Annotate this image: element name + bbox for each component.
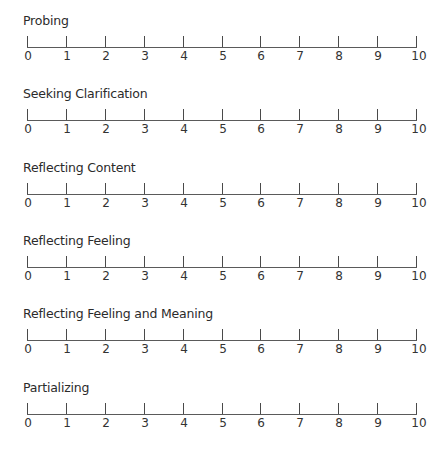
tick-mark[interactable] bbox=[338, 109, 339, 120]
tick-mark[interactable] bbox=[183, 183, 184, 194]
tick-mark[interactable] bbox=[377, 329, 378, 340]
tick-label: 2 bbox=[102, 196, 110, 210]
tick-mark[interactable] bbox=[222, 403, 223, 414]
tick-mark[interactable] bbox=[299, 256, 300, 267]
tick-mark[interactable] bbox=[222, 36, 223, 47]
tick-label: 4 bbox=[180, 196, 188, 210]
tick-mark[interactable] bbox=[416, 36, 417, 47]
tick-mark[interactable] bbox=[105, 329, 106, 340]
tick-mark[interactable] bbox=[377, 36, 378, 47]
scale-title: Probing bbox=[23, 13, 69, 28]
tick-mark[interactable] bbox=[105, 403, 106, 414]
tick-mark[interactable] bbox=[144, 329, 145, 340]
tick-label: 2 bbox=[102, 269, 110, 283]
tick-mark[interactable] bbox=[377, 183, 378, 194]
tick-mark[interactable] bbox=[27, 109, 28, 120]
tick-mark[interactable] bbox=[260, 183, 261, 194]
tick-mark[interactable] bbox=[222, 109, 223, 120]
tick-label: 0 bbox=[24, 196, 32, 210]
tick-mark[interactable] bbox=[66, 183, 67, 194]
tick-label: 7 bbox=[296, 196, 304, 210]
tick-mark[interactable] bbox=[66, 329, 67, 340]
tick-mark[interactable] bbox=[66, 36, 67, 47]
tick-label: 10 bbox=[411, 342, 426, 356]
rating-scale-reflecting-feeling-and-meaning: Reflecting Feeling and Meaning 012345678… bbox=[0, 306, 446, 376]
tick-mark[interactable] bbox=[416, 183, 417, 194]
tick-mark[interactable] bbox=[183, 329, 184, 340]
tick-label: 10 bbox=[411, 122, 426, 136]
tick-mark[interactable] bbox=[144, 109, 145, 120]
rating-scale-partializing: Partializing 012345678910 bbox=[0, 380, 446, 450]
tick-mark[interactable] bbox=[260, 256, 261, 267]
tick-mark[interactable] bbox=[299, 36, 300, 47]
tick-mark[interactable] bbox=[144, 256, 145, 267]
tick-mark[interactable] bbox=[183, 403, 184, 414]
tick-mark[interactable] bbox=[338, 403, 339, 414]
tick-mark[interactable] bbox=[27, 36, 28, 47]
tick-mark[interactable] bbox=[416, 403, 417, 414]
tick-mark[interactable] bbox=[416, 256, 417, 267]
axis-baseline bbox=[27, 267, 417, 268]
tick-mark[interactable] bbox=[27, 329, 28, 340]
tick-mark[interactable] bbox=[222, 183, 223, 194]
tick-mark[interactable] bbox=[338, 36, 339, 47]
tick-label: 4 bbox=[180, 269, 188, 283]
tick-label: 3 bbox=[141, 342, 149, 356]
tick-label: 10 bbox=[411, 49, 426, 63]
scale-title: Reflecting Feeling and Meaning bbox=[23, 306, 213, 321]
tick-mark[interactable] bbox=[260, 329, 261, 340]
tick-mark[interactable] bbox=[66, 256, 67, 267]
tick-mark[interactable] bbox=[260, 36, 261, 47]
tick-mark[interactable] bbox=[183, 109, 184, 120]
tick-mark[interactable] bbox=[27, 403, 28, 414]
tick-label: 10 bbox=[411, 196, 426, 210]
tick-mark[interactable] bbox=[377, 403, 378, 414]
tick-mark[interactable] bbox=[144, 183, 145, 194]
tick-mark[interactable] bbox=[338, 329, 339, 340]
tick-mark[interactable] bbox=[27, 256, 28, 267]
tick-mark[interactable] bbox=[105, 109, 106, 120]
tick-mark[interactable] bbox=[260, 403, 261, 414]
rating-scale-reflecting-content: Reflecting Content 012345678910 bbox=[0, 160, 446, 230]
tick-label: 3 bbox=[141, 122, 149, 136]
tick-label: 6 bbox=[257, 416, 265, 430]
tick-mark[interactable] bbox=[299, 183, 300, 194]
tick-label: 2 bbox=[102, 416, 110, 430]
tick-label: 0 bbox=[24, 122, 32, 136]
tick-mark[interactable] bbox=[144, 403, 145, 414]
tick-mark[interactable] bbox=[66, 403, 67, 414]
tick-mark[interactable] bbox=[299, 109, 300, 120]
tick-mark[interactable] bbox=[105, 256, 106, 267]
tick-label: 0 bbox=[24, 416, 32, 430]
tick-mark[interactable] bbox=[338, 183, 339, 194]
tick-label: 9 bbox=[374, 196, 382, 210]
tick-label: 6 bbox=[257, 342, 265, 356]
tick-label: 4 bbox=[180, 122, 188, 136]
tick-mark[interactable] bbox=[66, 109, 67, 120]
tick-label: 3 bbox=[141, 196, 149, 210]
axis-baseline bbox=[27, 340, 417, 341]
tick-mark[interactable] bbox=[299, 329, 300, 340]
tick-label: 5 bbox=[219, 122, 227, 136]
tick-mark[interactable] bbox=[416, 329, 417, 340]
tick-mark[interactable] bbox=[105, 36, 106, 47]
tick-label: 9 bbox=[374, 122, 382, 136]
tick-mark[interactable] bbox=[105, 183, 106, 194]
tick-mark[interactable] bbox=[299, 403, 300, 414]
tick-label: 8 bbox=[335, 196, 343, 210]
tick-mark[interactable] bbox=[183, 256, 184, 267]
tick-mark[interactable] bbox=[222, 329, 223, 340]
tick-mark[interactable] bbox=[377, 256, 378, 267]
tick-label: 4 bbox=[180, 49, 188, 63]
tick-mark[interactable] bbox=[338, 256, 339, 267]
tick-mark[interactable] bbox=[222, 256, 223, 267]
tick-label: 5 bbox=[219, 49, 227, 63]
tick-mark[interactable] bbox=[260, 109, 261, 120]
tick-mark[interactable] bbox=[377, 109, 378, 120]
tick-label: 4 bbox=[180, 342, 188, 356]
tick-mark[interactable] bbox=[27, 183, 28, 194]
tick-label: 2 bbox=[102, 49, 110, 63]
tick-mark[interactable] bbox=[183, 36, 184, 47]
tick-mark[interactable] bbox=[416, 109, 417, 120]
tick-mark[interactable] bbox=[144, 36, 145, 47]
